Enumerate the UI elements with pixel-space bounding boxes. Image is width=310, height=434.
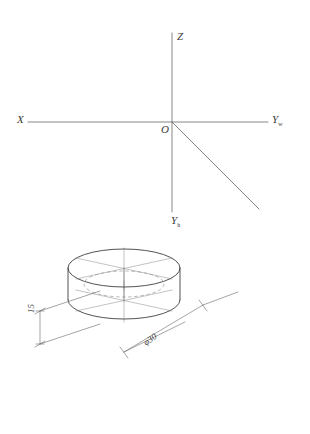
axis-label-origin: O bbox=[161, 124, 169, 135]
axis-label-y-h: Yh bbox=[171, 215, 180, 228]
axis-label-x: X bbox=[17, 114, 24, 125]
dimension-label-height: 15 bbox=[27, 304, 36, 313]
page-background bbox=[0, 0, 310, 434]
axis-label-z: Z bbox=[177, 31, 183, 42]
axis-label-y-w: Yw bbox=[272, 114, 282, 127]
axis-label-y-w-subscript: w bbox=[278, 121, 282, 127]
axis-label-y-h-subscript: h bbox=[177, 222, 180, 228]
technical-drawing-canvas bbox=[0, 0, 310, 434]
